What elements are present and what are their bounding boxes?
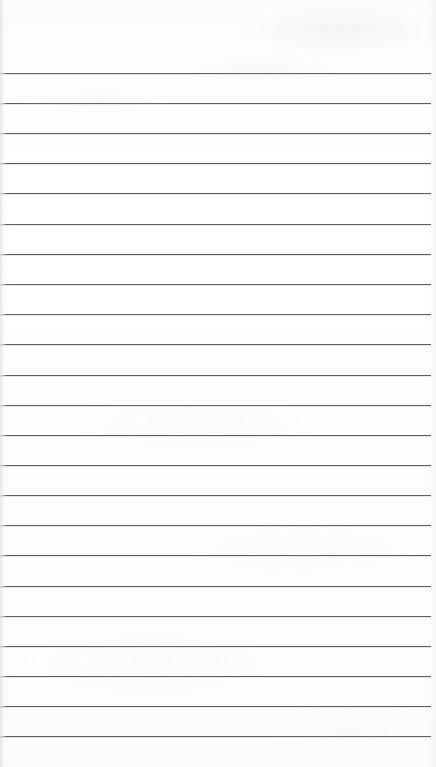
rule-line xyxy=(0,586,431,587)
rule-line xyxy=(0,495,431,496)
rule-line xyxy=(0,405,431,406)
rule-line xyxy=(0,706,431,707)
rule-line xyxy=(0,133,431,134)
rule-line xyxy=(0,676,431,677)
rule-line xyxy=(0,435,431,436)
rule-line xyxy=(0,224,431,225)
rule-line xyxy=(0,375,431,376)
rule-line xyxy=(0,284,431,285)
rule-line xyxy=(0,646,431,647)
rule-line xyxy=(0,555,431,556)
rule-line xyxy=(0,344,431,345)
rule-line xyxy=(0,736,431,737)
rule-line xyxy=(0,163,431,164)
notepad-page xyxy=(0,0,436,767)
rule-line xyxy=(0,73,431,74)
rule-line xyxy=(0,103,431,104)
rule-line xyxy=(0,254,431,255)
rule-line xyxy=(0,525,431,526)
rule-line xyxy=(0,193,431,194)
ruled-lines-group xyxy=(0,0,436,767)
rule-line xyxy=(0,616,431,617)
rule-line xyxy=(0,465,431,466)
rule-line xyxy=(0,314,431,315)
